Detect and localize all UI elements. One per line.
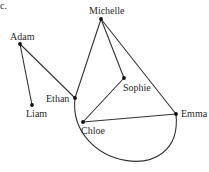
edge-adam-ethan [20,44,75,98]
node-sophie [122,76,126,80]
node-label-sophie: Sophie [123,82,151,93]
graph-diagram: c. MichelleAdamLiamEthanSophieChloeEmma [0,0,209,172]
node-ethan [73,96,77,100]
edge-michelle-sophie [101,19,124,78]
node-adam [18,42,22,46]
node-label-adam: Adam [10,31,35,42]
edge-sophie-chloe [83,78,124,122]
node-liam [30,103,34,107]
edge-michelle-emma [101,19,176,114]
node-emma [174,112,178,116]
node-chloe [81,120,85,124]
node-label-liam: Liam [26,108,47,119]
edge-adam-liam [20,44,32,105]
labels: MichelleAdamLiamEthanSophieChloeEmma [10,5,208,136]
edges [20,19,176,161]
edge-ethan-michelle [75,19,101,98]
edge-chloe-emma [83,114,176,122]
part-label: c. [0,0,7,11]
node-label-emma: Emma [181,108,208,119]
node-label-chloe: Chloe [81,125,105,136]
node-label-michelle: Michelle [89,5,125,16]
node-michelle [99,17,103,21]
node-label-ethan: Ethan [46,93,69,104]
